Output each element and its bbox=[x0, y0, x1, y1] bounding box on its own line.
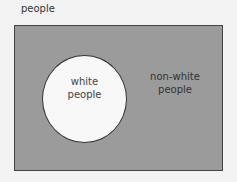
inner-set-label-line2: people bbox=[68, 88, 102, 101]
universe-label: people bbox=[21, 3, 55, 14]
inner-set-label: white people bbox=[68, 75, 102, 101]
inner-set-label-line1: white bbox=[68, 75, 102, 88]
white-people-circle: white people bbox=[42, 55, 127, 143]
complement-label-line1: non-white bbox=[143, 70, 207, 83]
complement-label: non-white people bbox=[143, 70, 207, 96]
complement-label-line2: people bbox=[143, 83, 207, 96]
